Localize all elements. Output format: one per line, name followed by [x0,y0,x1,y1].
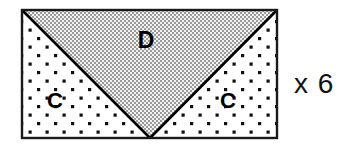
label-region-d: D [138,27,155,53]
label-region-c-right: C [220,88,236,113]
diagram-canvas: C D C x 6 [0,0,361,151]
quantity-multiplier: x 6 [294,70,334,98]
label-region-c-left: C [47,88,63,113]
